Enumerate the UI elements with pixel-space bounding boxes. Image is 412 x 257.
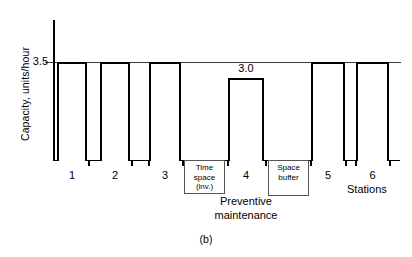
x-tick-2 <box>131 160 133 166</box>
x-tick-5 <box>227 160 229 166</box>
y-axis-label: Capacity, units/hour <box>19 24 31 164</box>
station-label-6: 6 <box>356 169 389 181</box>
station-label-5: 5 <box>311 169 345 181</box>
bar-value-station-4: 3.0 <box>228 62 264 74</box>
annotation-space-buffer-box: Space buffer <box>268 160 309 196</box>
preventive-line1: Preventive <box>186 194 306 208</box>
x-tick-7 <box>310 160 312 166</box>
x-tick-10 <box>389 160 391 166</box>
bar-station-3 <box>149 62 181 161</box>
figure-caption: (b) <box>0 233 412 245</box>
annotation-space-buffer-line2: buffer <box>269 173 308 183</box>
bar-station-6 <box>356 62 389 161</box>
annotation-time-space-line3: (inv.) <box>185 182 224 192</box>
y-tick-label-3-5: 3.5 <box>22 55 48 67</box>
station-label-1: 1 <box>57 169 87 181</box>
bar-station-5 <box>311 62 345 161</box>
annotation-preventive-maintenance: Preventive maintenance <box>186 194 306 222</box>
y-axis-line <box>53 20 55 161</box>
x-tick-1 <box>88 160 90 166</box>
bar-station-2 <box>100 62 130 161</box>
bar-station-1 <box>57 62 87 161</box>
x-axis-label: Stations <box>347 183 387 195</box>
x-tick-8 <box>345 160 347 166</box>
preventive-line2: maintenance <box>186 208 306 222</box>
station-label-2: 2 <box>100 169 130 181</box>
x-tick-6 <box>265 160 267 166</box>
x-tick-9 <box>355 160 357 166</box>
station-label-3: 3 <box>149 169 181 181</box>
figure-chart: Capacity, units/hour 3.5 3.0 1 2 3 4 5 6… <box>0 0 412 257</box>
annotation-time-space-line1: Time <box>185 163 224 173</box>
annotation-time-space-line2: space <box>185 173 224 183</box>
bar-station-4 <box>228 78 264 161</box>
station-label-4: 4 <box>228 169 264 181</box>
x-tick-3 <box>148 160 150 166</box>
annotation-time-space-box: Time space (inv.) <box>184 160 225 194</box>
annotation-space-buffer-line1: Space <box>269 163 308 173</box>
gridline-3-5 <box>45 62 401 63</box>
